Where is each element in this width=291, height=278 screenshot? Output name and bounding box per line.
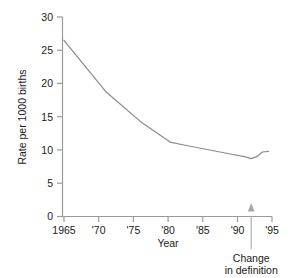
- annotation-text-line2: in definition: [225, 264, 278, 276]
- change-in-definition-annotation: Change in definition: [225, 203, 278, 276]
- data-line-series-0: [64, 40, 269, 158]
- y-tick-label: 20: [41, 77, 53, 89]
- x-tick-label: '75: [127, 224, 141, 236]
- x-tick-label: 1965: [52, 224, 76, 236]
- y-tick-label: 5: [47, 177, 53, 189]
- annotation-text-line1: Change: [233, 252, 270, 264]
- y-tick-label: 25: [41, 44, 53, 56]
- x-tick-labels: 1965 '70 '75 '80 '85 '90 '95: [52, 224, 279, 236]
- y-tick-label: 15: [41, 111, 53, 123]
- line-chart: 30 25 20 15 10 5 0 1965 '70 '75 '80 '85 …: [0, 0, 291, 278]
- y-tick-labels: 30 25 20 15 10 5 0: [41, 11, 53, 223]
- y-tick-label: 30: [41, 11, 53, 23]
- y-tick-label: 10: [41, 144, 53, 156]
- x-tick-label: '70: [92, 224, 106, 236]
- annotation-arrow-icon: [248, 203, 255, 212]
- x-axis-title: Year: [157, 237, 179, 249]
- chart-canvas: 30 25 20 15 10 5 0 1965 '70 '75 '80 '85 …: [0, 0, 291, 278]
- x-tick-label: '95: [265, 224, 279, 236]
- y-tick-marks: [57, 17, 63, 217]
- x-tick-label: '85: [196, 224, 210, 236]
- x-tick-label: '90: [231, 224, 245, 236]
- y-tick-label: 0: [47, 210, 53, 222]
- x-tick-marks: [64, 217, 272, 223]
- y-axis-title: Rate per 1000 births: [16, 69, 28, 164]
- x-tick-label: '80: [161, 224, 175, 236]
